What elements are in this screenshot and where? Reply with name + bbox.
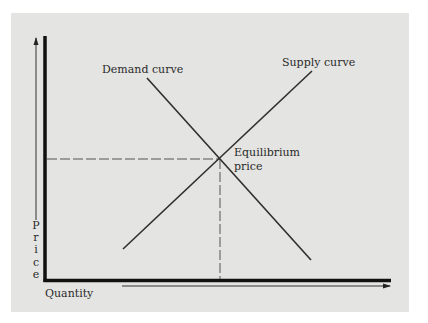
y-axis-letter: i: [34, 243, 38, 256]
x-axis-label: Quantity: [45, 287, 94, 300]
y-axis-letter: e: [33, 268, 40, 281]
demand-curve: [147, 78, 311, 260]
supply-label: Supply curve: [282, 56, 355, 69]
equilibrium-label: Equilibrium: [234, 146, 301, 159]
demand-label: Demand curve: [102, 63, 183, 76]
supply-demand-diagram: Demand curve Supply curve Equilibrium pr…: [0, 0, 428, 323]
supply-curve: [123, 71, 312, 249]
equilibrium-price-label: price: [234, 160, 263, 173]
